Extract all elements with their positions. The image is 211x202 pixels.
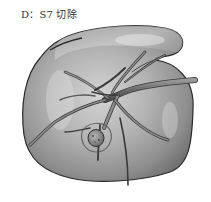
- tumor-nodule: [88, 130, 104, 147]
- liver-illustration: [0, 0, 211, 202]
